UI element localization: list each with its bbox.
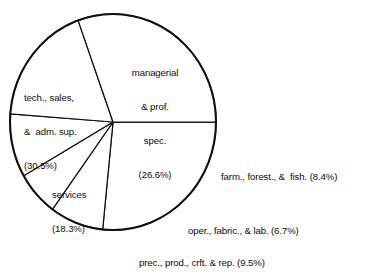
slice-label-managerial: managerial & prof. spec. (26.6%) [118, 44, 192, 204]
slice-label-managerial-line1: managerial [118, 67, 192, 78]
slice-label-managerial-line2: & prof. [118, 101, 192, 112]
slice-label-services: services (18.3%) [52, 166, 114, 257]
slice-label-prec-line1: prec., prod., crft. & rep. (9.5%) [139, 257, 351, 268]
slice-label-services-line1: services [52, 189, 114, 200]
slice-label-managerial-line3: spec. [118, 135, 192, 146]
slice-label-farm-line1: farm., forest., & fish. (8.4%) [221, 171, 369, 182]
slice-label-farm-forest-fish: farm., forest., & fish. (8.4%) [221, 148, 369, 205]
slice-label-prec-prod-crft-rep: prec., prod., crft. & rep. (9.5%) [139, 234, 351, 272]
slice-label-tech-line2: & adm. sup. [24, 126, 118, 137]
slice-label-managerial-value: (26.6%) [118, 169, 192, 180]
slice-label-services-value: (18.3%) [52, 223, 114, 234]
slice-label-tech-line1: tech., sales, [24, 92, 118, 103]
